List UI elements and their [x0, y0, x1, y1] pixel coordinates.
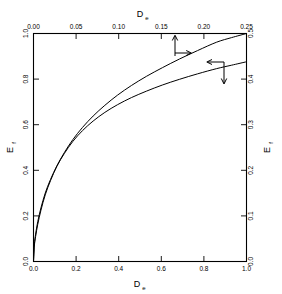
left-tick-label-4: 0.8: [22, 74, 29, 83]
top-tick-label-1: 0.05: [70, 23, 83, 30]
top-axis-title-main: D: [137, 9, 144, 19]
right-axis-title: E f: [262, 142, 274, 153]
bottom-tick-label-1: 0.2: [72, 265, 81, 272]
bottom-tick-label-0: 0.0: [29, 265, 38, 272]
bottom-axis-ticks: [34, 256, 247, 262]
top-axis: 0.00 0.05 0.10 0.15 0.20 0.25 D e: [27, 9, 253, 39]
bottom-tick-label-3: 0.6: [157, 265, 166, 272]
plot-frame: [34, 34, 247, 262]
right-axis-ticks: [241, 34, 247, 262]
top-tick-label-4: 0.20: [198, 23, 211, 30]
right-tick-label-5: 0.5: [247, 29, 254, 38]
left-tick-label-2: 0.4: [22, 165, 29, 174]
left-axis-title-sub: f: [11, 142, 17, 144]
bottom-axis-title-main: D: [134, 279, 141, 289]
left-axis-tick-labels: 0.0 0.2 0.4 0.6 0.8 1.0: [22, 29, 29, 266]
top-axis-ticks: [34, 34, 247, 40]
top-axis-title-sub: e: [145, 15, 149, 21]
bottom-axis-title: D e: [134, 279, 147, 291]
top-tick-label-5: 0.25: [240, 23, 253, 30]
left-axis-title: E f: [5, 142, 17, 153]
right-tick-label-0: 0.0: [247, 257, 254, 266]
right-tick-label-2: 0.2: [247, 165, 254, 174]
series-upper-curve: [34, 34, 247, 262]
left-tick-label-5: 1.0: [22, 29, 29, 38]
right-tick-label-4: 0.4: [247, 74, 254, 83]
top-axis-title: D e: [137, 9, 150, 21]
right-axis-title-main: E: [262, 147, 272, 153]
top-tick-label-2: 0.10: [112, 23, 125, 30]
bottom-tick-label-2: 0.4: [114, 265, 123, 272]
data-curves: [34, 34, 247, 262]
series-lower-curve: [34, 62, 247, 262]
annotation-lower-curve-arrow: [207, 60, 227, 85]
left-axis-title-main: E: [5, 147, 15, 153]
right-axis-title-sub: f: [268, 142, 274, 144]
figure: 0.00 0.05 0.10 0.15 0.20 0.25 D e 0.0 0.…: [0, 0, 282, 294]
bottom-axis-title-sub: e: [142, 285, 146, 291]
right-tick-label-1: 0.1: [247, 211, 254, 220]
top-axis-tick-labels: 0.00 0.05 0.10 0.15 0.20 0.25: [27, 23, 253, 30]
bottom-axis-tick-labels: 0.0 0.2 0.4 0.6 0.8 1.0: [29, 265, 251, 272]
right-tick-label-3: 0.3: [247, 120, 254, 129]
annotation-upper-curve-arrow: [172, 35, 191, 56]
left-tick-label-1: 0.2: [22, 211, 29, 220]
top-tick-label-3: 0.15: [155, 23, 168, 30]
left-tick-label-0: 0.0: [22, 257, 29, 266]
bottom-tick-label-4: 0.8: [199, 265, 208, 272]
top-tick-label-0: 0.00: [27, 23, 40, 30]
right-axis-tick-labels: 0.0 0.1 0.2 0.3 0.4 0.5: [247, 29, 254, 266]
left-tick-label-3: 0.6: [22, 120, 29, 129]
